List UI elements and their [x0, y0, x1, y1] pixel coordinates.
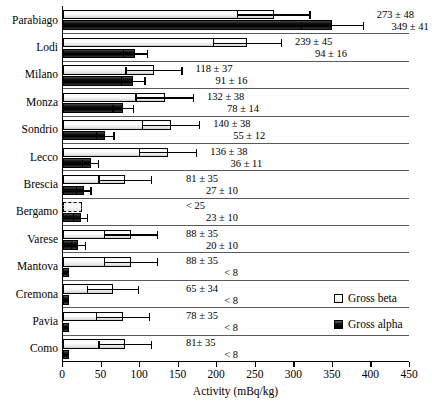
- y-axis-label-bergamo: Bergamo: [0, 205, 58, 217]
- x-tick-label: 350: [312, 368, 352, 381]
- error-bar-gross-beta: [213, 43, 282, 44]
- error-bar-gross-beta: [135, 97, 194, 98]
- legend-swatch-alpha-icon: [334, 320, 343, 329]
- value-label-gross-alpha: < 8: [186, 349, 238, 361]
- error-bar-gross-beta: [104, 262, 158, 263]
- x-axis-title: Activity (mBq/kg): [62, 385, 409, 397]
- y-axis-label-sondrio: Sondrio: [0, 123, 58, 135]
- error-bar-gross-beta: [142, 125, 201, 126]
- value-label-gross-beta: 81± 35: [186, 337, 215, 349]
- value-label-gross-beta: 118 ± 37: [196, 63, 233, 75]
- y-axis-label-brescia: Brescia: [0, 178, 58, 190]
- error-bar-gross-alpha: [82, 163, 99, 164]
- x-tick: [178, 362, 179, 367]
- x-tick: [409, 362, 410, 367]
- value-label-gross-alpha: 55 ± 12: [213, 130, 265, 142]
- legend-label-alpha: Gross alpha: [348, 318, 403, 330]
- error-bar-gross-beta: [104, 234, 158, 235]
- bar-gross-alpha: [63, 350, 69, 359]
- category-row: [63, 33, 409, 60]
- value-label-gross-beta: 88 ± 35: [186, 228, 218, 240]
- value-label-gross-beta: 81 ± 35: [186, 173, 218, 185]
- plot-area: [62, 6, 409, 362]
- value-label-gross-beta: 78 ± 35: [186, 310, 218, 322]
- y-axis-label-mantova: Mantova: [0, 260, 58, 272]
- error-bar-gross-beta: [237, 14, 311, 15]
- x-tick-label: 100: [119, 368, 159, 381]
- value-label-gross-alpha: < 8: [186, 295, 238, 307]
- value-label-gross-beta: 65 ± 34: [186, 283, 218, 295]
- error-bar-gross-beta: [98, 180, 152, 181]
- bar-gross-beta: [63, 202, 82, 211]
- x-tick: [139, 362, 140, 367]
- value-label-gross-alpha: 349 ± 41: [377, 21, 429, 33]
- x-tick: [293, 362, 294, 367]
- y-axis-label-cremona: Cremona: [0, 288, 58, 300]
- x-tick-label: 200: [196, 368, 236, 381]
- bar-gross-alpha: [63, 268, 69, 277]
- bar-gross-alpha: [63, 295, 69, 304]
- bar-gross-alpha: [63, 20, 332, 29]
- error-bar-gross-beta: [139, 152, 198, 153]
- value-label-gross-beta: 132 ± 38: [207, 91, 244, 103]
- value-label-gross-beta: 239 ± 45: [295, 36, 332, 48]
- error-bar-gross-alpha: [112, 108, 134, 109]
- y-axis-label-lecco: Lecco: [0, 151, 58, 163]
- error-bar-gross-alpha: [121, 81, 146, 82]
- legend-label-beta: Gross beta: [348, 292, 397, 304]
- x-tick: [62, 362, 63, 367]
- x-tick-label: 450: [389, 368, 429, 381]
- x-tick-label: 400: [350, 368, 390, 381]
- x-tick: [101, 362, 102, 367]
- error-bar-gross-alpha: [123, 53, 148, 54]
- y-axis-label-parabiago: Parabiago: [0, 14, 58, 26]
- y-axis-label-lodi: Lodi: [0, 41, 58, 53]
- error-bar-gross-alpha: [96, 136, 115, 137]
- error-bar-gross-beta: [125, 70, 182, 71]
- value-label-gross-alpha: 78 ± 14: [207, 103, 259, 115]
- value-label-gross-alpha: 36 ± 11: [210, 158, 262, 170]
- value-label-gross-alpha: < 8: [186, 322, 238, 334]
- y-axis-label-pavia: Pavia: [0, 315, 58, 327]
- x-tick: [332, 362, 333, 367]
- value-label-gross-alpha: 94 ± 16: [295, 48, 347, 60]
- legend-item-gross-alpha: Gross alpha: [334, 318, 403, 330]
- error-bar-gross-beta: [96, 317, 150, 318]
- bar-gross-alpha: [63, 323, 69, 332]
- error-bar-gross-alpha: [76, 190, 91, 191]
- value-label-gross-beta: 140 ± 38: [213, 118, 250, 130]
- category-row: [63, 6, 409, 33]
- value-label-gross-alpha: 23 ± 10: [186, 212, 238, 224]
- x-tick: [255, 362, 256, 367]
- x-tick-label: 300: [273, 368, 313, 381]
- x-tick-label: 0: [42, 368, 82, 381]
- x-tick: [216, 362, 217, 367]
- error-bar-gross-alpha: [71, 245, 86, 246]
- x-tick-label: 150: [158, 368, 198, 381]
- value-label-gross-beta: < 25: [186, 200, 205, 212]
- value-label-gross-alpha: < 8: [186, 267, 238, 279]
- y-axis-label-milano: Milano: [0, 68, 58, 80]
- y-axis-label-monza: Monza: [0, 96, 58, 108]
- x-tick: [370, 362, 371, 367]
- value-label-gross-alpha: 91 ± 16: [196, 75, 248, 87]
- value-label-gross-beta: 273 ± 48: [377, 9, 414, 21]
- value-label-gross-alpha: 27 ± 10: [186, 185, 238, 197]
- x-tick-label: 50: [81, 368, 121, 381]
- error-bar-gross-beta: [87, 289, 139, 290]
- error-bar-gross-beta: [98, 344, 152, 345]
- legend-item-gross-beta: Gross beta: [334, 292, 397, 304]
- legend-swatch-beta-icon: [334, 294, 343, 303]
- x-tick-label: 250: [235, 368, 275, 381]
- y-axis-label-como: Como: [0, 342, 58, 354]
- value-label-gross-alpha: 20 ± 10: [186, 240, 238, 252]
- gross-alpha-beta-activity-chart: ParabiagoLodiMilanoMonzaSondrioLeccoBres…: [0, 0, 432, 412]
- value-label-gross-beta: 136 ± 38: [210, 146, 247, 158]
- value-label-gross-beta: 88 ± 35: [186, 255, 218, 267]
- y-axis-label-varese: Varese: [0, 233, 58, 245]
- error-bar-gross-alpha: [73, 218, 88, 219]
- error-bar-gross-alpha: [301, 25, 364, 26]
